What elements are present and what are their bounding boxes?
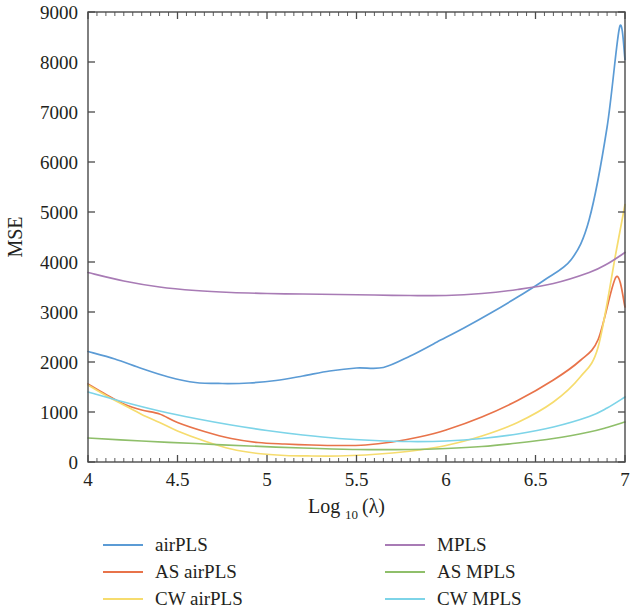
x-axis-title-argument: (λ) [362, 495, 385, 518]
x-tick-label: 5 [262, 469, 272, 490]
legend-item[interactable]: MPLS [385, 534, 487, 555]
y-tick-label: 8000 [40, 52, 78, 73]
figure-container: 44.555.566.57010002000300040005000600070… [0, 0, 636, 611]
legend-item[interactable]: CW airPLS [103, 588, 243, 609]
y-tick-label: 6000 [40, 152, 78, 173]
x-tick-label: 6 [441, 469, 451, 490]
legend-label: CW MPLS [437, 588, 522, 609]
x-tick-label: 6.5 [524, 469, 548, 490]
y-tick-label: 0 [69, 452, 79, 473]
legend-label: MPLS [437, 534, 487, 555]
legend-item[interactable]: AS MPLS [385, 561, 516, 582]
legend-label: AS MPLS [437, 561, 516, 582]
legend-label: CW airPLS [155, 588, 243, 609]
x-axis-title-subscript: 10 [345, 507, 358, 522]
x-tick-label: 7 [620, 469, 630, 490]
y-tick-label: 2000 [40, 352, 78, 373]
legend-item[interactable]: airPLS [103, 534, 208, 555]
y-axis-title: MSE [4, 216, 26, 257]
y-tick-label: 4000 [40, 252, 78, 273]
x-axis-title-base: Log [308, 495, 340, 518]
y-tick-label: 1000 [40, 402, 78, 423]
mse-vs-lambda-line-chart: 44.555.566.57010002000300040005000600070… [0, 0, 636, 611]
y-tick-label: 9000 [40, 2, 78, 23]
legend-item[interactable]: CW MPLS [385, 588, 522, 609]
legend-label: AS airPLS [155, 561, 237, 582]
legend: airPLSMPLSAS airPLSAS MPLSCW airPLSCW MP… [103, 534, 522, 609]
x-tick-label: 5.5 [345, 469, 369, 490]
plot-area [88, 12, 625, 462]
y-tick-label: 7000 [40, 102, 78, 123]
legend-label: airPLS [155, 534, 208, 555]
x-tick-label: 4.5 [166, 469, 190, 490]
y-tick-label: 3000 [40, 302, 78, 323]
x-tick-label: 4 [83, 469, 93, 490]
y-tick-label: 5000 [40, 202, 78, 223]
plot-background [88, 12, 625, 462]
x-axis-title: Log 10 (λ) [308, 495, 385, 522]
legend-item[interactable]: AS airPLS [103, 561, 237, 582]
